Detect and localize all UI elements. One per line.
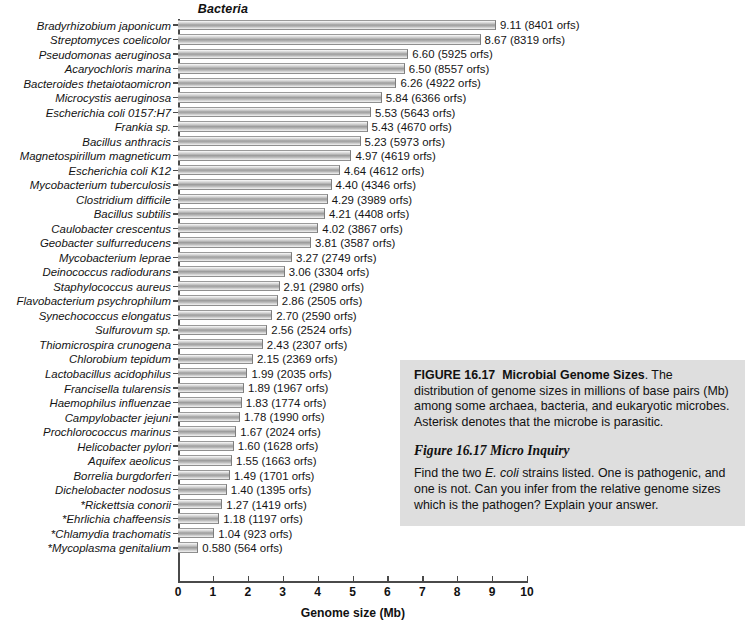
species-label: Microcystis aeruginosa xyxy=(55,92,171,104)
bar-row: Sulfurovum sp.2.56 (2524 orfs) xyxy=(178,324,738,339)
bar-row: Pseudomonas aeruginosa6.60 (5925 orfs) xyxy=(178,48,738,63)
micro-inquiry-heading: Figure 16.17 Micro Inquiry xyxy=(414,443,731,459)
genome-size-bar xyxy=(178,397,242,407)
species-label: Caulobacter crescentus xyxy=(51,223,171,235)
x-axis-tick-label: 7 xyxy=(419,585,426,599)
bar-value-label: 4.21 (4408 orfs) xyxy=(329,208,409,221)
species-label: Bacteroides thetaiotaomicron xyxy=(23,78,171,90)
bar-row: *Chlamydia trachomatis1.04 (923 orfs) xyxy=(178,527,738,542)
species-label: Magnetospirillum magneticum xyxy=(20,150,171,162)
x-axis-tick-label: 2 xyxy=(244,585,251,599)
genome-size-bar xyxy=(178,339,263,349)
x-axis-tick-label: 3 xyxy=(279,585,286,599)
species-label: *Mycoplasma genitalium xyxy=(48,542,171,554)
bar-value-label: 2.43 (2307 orfs) xyxy=(267,339,347,352)
bar-row: Escherichia coli 0157:H75.53 (5643 orfs) xyxy=(178,106,738,121)
genome-size-bar xyxy=(178,426,236,436)
x-axis-tick-label: 8 xyxy=(454,585,461,599)
bar-value-label: 9.11 (8401 orfs) xyxy=(500,19,580,32)
species-label: Chlorobium tepidum xyxy=(69,353,171,365)
bar-value-label: 1.18 (1197 orfs) xyxy=(223,513,303,526)
bar-row: Bradyrhizobium japonicum9.11 (8401 orfs) xyxy=(178,19,738,34)
species-label: Flavobacterium psychrophilum xyxy=(17,295,171,307)
species-label: Acaryochloris marina xyxy=(65,63,171,75)
x-axis-tick xyxy=(283,576,284,581)
micro-inquiry-text: Find the two E. coli strains listed. One… xyxy=(414,466,731,513)
bar-value-label: 1.89 (1967 orfs) xyxy=(248,382,328,395)
bar-row: Bacteroides thetaiotaomicron6.26 (4922 o… xyxy=(178,77,738,92)
genome-size-bar xyxy=(178,295,278,305)
bar-value-label: 2.86 (2505 orfs) xyxy=(282,295,362,308)
species-label: Bradyrhizobium japonicum xyxy=(37,20,171,32)
genome-size-bar xyxy=(178,412,240,422)
species-label: *Rickettsia conorii xyxy=(80,499,171,511)
species-label: Bacillus subtilis xyxy=(94,208,171,220)
bar-row: Synechococcus elongatus2.70 (2590 orfs) xyxy=(178,309,738,324)
species-label: Campylobacter jejuni xyxy=(65,412,171,424)
x-axis-tick xyxy=(178,576,179,581)
x-axis-tick xyxy=(213,576,214,581)
species-label: Aquifex aeolicus xyxy=(88,455,171,467)
species-label: Mycobacterium leprae xyxy=(59,252,171,264)
bar-row: Geobacter sulfurreducens3.81 (3587 orfs) xyxy=(178,237,738,252)
bar-value-label: 1.04 (923 orfs) xyxy=(218,528,292,541)
bar-row: Bacillus subtilis4.21 (4408 orfs) xyxy=(178,208,738,223)
species-label: Streptomyces coelicolor xyxy=(50,34,171,46)
bar-value-label: 1.27 (1419 orfs) xyxy=(226,499,306,512)
x-axis-tick xyxy=(492,576,493,581)
bar-row: Mycobacterium leprae3.27 (2749 orfs) xyxy=(178,251,738,266)
species-label: Escherichia coli K12 xyxy=(68,165,171,177)
x-axis-tick xyxy=(387,576,388,581)
species-label: Haemophilus influenzae xyxy=(49,397,171,409)
genome-size-bar xyxy=(178,92,382,102)
x-axis-tick xyxy=(527,576,528,581)
bar-value-label: 4.29 (3989 orfs) xyxy=(332,194,412,207)
bar-value-label: 3.27 (2749 orfs) xyxy=(296,252,376,265)
genome-size-bar xyxy=(178,223,318,233)
bar-row: Caulobacter crescentus4.02 (3867 orfs) xyxy=(178,222,738,237)
bar-row: Mycobacterium tuberculosis4.40 (4346 orf… xyxy=(178,179,738,194)
figure-microbial-genome-sizes: Bacteria Bradyrhizobium japonicum9.11 (8… xyxy=(0,0,745,631)
bar-row: Magnetospirillum magneticum4.97 (4619 or… xyxy=(178,150,738,165)
figure-number: FIGURE 16.17 xyxy=(414,368,495,382)
genome-size-bar xyxy=(178,325,267,335)
genome-size-bar xyxy=(178,441,234,451)
bar-value-label: 0.580 (564 orfs) xyxy=(202,542,282,555)
genome-size-bar xyxy=(178,49,408,59)
bar-value-label: 6.26 (4922 orfs) xyxy=(400,77,480,90)
bar-value-label: 5.23 (5973 orfs) xyxy=(365,136,445,149)
bar-row: Streptomyces coelicolor8.67 (8319 orfs) xyxy=(178,34,738,49)
genome-size-bar xyxy=(178,499,222,509)
species-label: Geobacter sulfurreducens xyxy=(40,237,171,249)
x-axis-tick-label: 1 xyxy=(210,585,217,599)
bar-value-label: 4.02 (3867 orfs) xyxy=(322,223,402,236)
species-label: Helicobacter pylori xyxy=(77,441,171,453)
bar-value-label: 3.06 (3304 orfs) xyxy=(289,266,369,279)
genome-size-bar xyxy=(178,150,351,160)
species-label: Pseudomonas aeruginosa xyxy=(39,49,171,61)
figure-title: Microbial Genome Sizes xyxy=(502,368,645,382)
figure-caption: FIGURE 16.17 Microbial Genome Sizes. The… xyxy=(414,368,731,430)
species-label: Prochlorococcus marinus xyxy=(43,426,171,438)
species-label: Escherichia coli 0157:H7 xyxy=(46,107,171,119)
genome-size-bar xyxy=(178,208,325,218)
genome-size-bar xyxy=(178,354,253,364)
genome-size-bar xyxy=(178,78,396,88)
genome-size-bar xyxy=(178,281,280,291)
genome-size-bar xyxy=(178,194,328,204)
species-label: Frankia sp. xyxy=(115,121,171,133)
genome-size-bar xyxy=(178,455,232,465)
x-axis-tick xyxy=(318,576,319,581)
bar-value-label: 5.53 (5643 orfs) xyxy=(375,107,455,120)
species-label: Sulfurovum sp. xyxy=(95,324,171,336)
bar-value-label: 2.56 (2524 orfs) xyxy=(271,324,351,337)
bar-value-label: 1.67 (2024 orfs) xyxy=(240,426,320,439)
species-label: Mycobacterium tuberculosis xyxy=(30,179,171,191)
genome-size-bar xyxy=(178,34,481,44)
genome-size-bar xyxy=(178,383,244,393)
genome-size-bar xyxy=(178,266,285,276)
bar-row: *Mycoplasma genitalium0.580 (564 orfs) xyxy=(178,542,738,557)
bar-row: Thiomicrospira crunogena2.43 (2307 orfs) xyxy=(178,338,738,353)
genome-size-bar xyxy=(178,121,368,131)
bar-row: Clostridium difficile4.29 (3989 orfs) xyxy=(178,193,738,208)
